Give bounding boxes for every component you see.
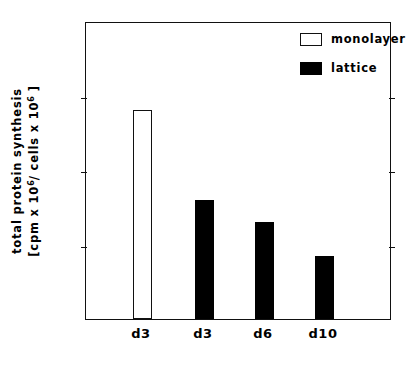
legend-label-monolayer: monolayer [331, 32, 406, 46]
bar-lattice-d6 [255, 222, 274, 319]
legend: monolayer lattice [300, 28, 400, 86]
y-axis-tick-right [389, 247, 395, 248]
y-axis-units-exponent-1: 6 [27, 180, 36, 186]
y-axis-label: total protein synthesis [cpm x 106/ cell… [8, 22, 48, 320]
y-axis-label-line-2: [cpm x 106/ cells x 106 ] [27, 85, 42, 257]
y-axis-units-suffix: ] [27, 85, 41, 96]
legend-label-lattice: lattice [331, 61, 377, 75]
y-axis-units-mid: / cells x 10 [27, 102, 41, 181]
x-axis-tick-label: d10 [308, 326, 337, 341]
legend-item-lattice: lattice [300, 57, 400, 79]
x-axis-tick-label: d3 [193, 326, 213, 341]
y-axis-label-line-1: total protein synthesis [10, 88, 24, 254]
x-axis-tick-label: d6 [253, 326, 273, 341]
y-axis-tick-left [81, 247, 87, 248]
bar-lattice-d3 [195, 200, 214, 319]
x-axis-tick-label: d3 [131, 326, 151, 341]
y-axis-units-prefix: [cpm x 10 [27, 186, 41, 257]
legend-swatch-lattice-icon [300, 62, 322, 75]
y-axis-units-exponent-2: 6 [27, 96, 36, 102]
legend-item-monolayer: monolayer [300, 28, 400, 50]
bar-lattice-d10 [315, 256, 334, 319]
y-axis-tick-right [389, 98, 395, 99]
legend-swatch-monolayer-icon [300, 33, 322, 46]
y-axis-tick-right [389, 172, 395, 173]
y-axis-tick-left [81, 172, 87, 173]
bar-chart-figure: total protein synthesis [cpm x 106/ cell… [0, 0, 406, 373]
bar-monolayer-d3 [133, 110, 152, 319]
y-axis-tick-left [81, 98, 87, 99]
